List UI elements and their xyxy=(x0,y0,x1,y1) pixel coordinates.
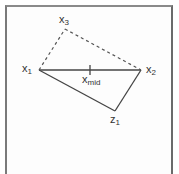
edge-x1-x3-dashed xyxy=(39,29,65,70)
geometry-diagram xyxy=(0,0,179,174)
label-x3: x3 xyxy=(59,14,69,27)
edge-z1-x2 xyxy=(115,70,141,111)
label-x1: x1 xyxy=(22,63,32,76)
label-z1: z1 xyxy=(110,114,120,127)
edge-x3-x2-dashed xyxy=(65,29,141,70)
label-x2: x2 xyxy=(146,64,156,77)
edge-x1-z1 xyxy=(39,70,115,111)
label-xmid: xmid xyxy=(82,74,100,87)
